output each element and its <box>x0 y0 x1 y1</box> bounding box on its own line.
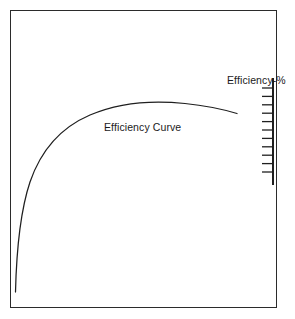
efficiency-curve-label: Efficiency Curve <box>104 122 181 133</box>
efficiency-axis-title: Efficiency-% <box>227 75 286 86</box>
efficiency-curve-figure: Efficiency Curve Efficiency-% <box>0 0 295 319</box>
plot-frame-border <box>10 10 277 308</box>
